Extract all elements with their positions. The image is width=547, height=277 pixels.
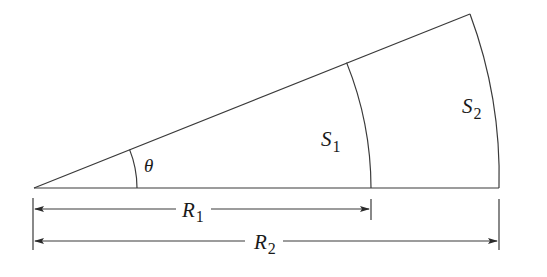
arc-s1 bbox=[347, 63, 371, 188]
arc-s2 bbox=[470, 14, 499, 188]
upper-radius bbox=[34, 14, 470, 188]
s2-label: S2 bbox=[462, 94, 482, 122]
r1-label: R1 bbox=[181, 198, 204, 225]
s1-label: S1 bbox=[321, 127, 341, 155]
theta-arc bbox=[130, 150, 137, 188]
theta-label: θ bbox=[144, 155, 153, 176]
r2-label: R2 bbox=[253, 230, 276, 257]
sector-diagram: θ S1 S2 R1 R2 bbox=[0, 0, 547, 277]
